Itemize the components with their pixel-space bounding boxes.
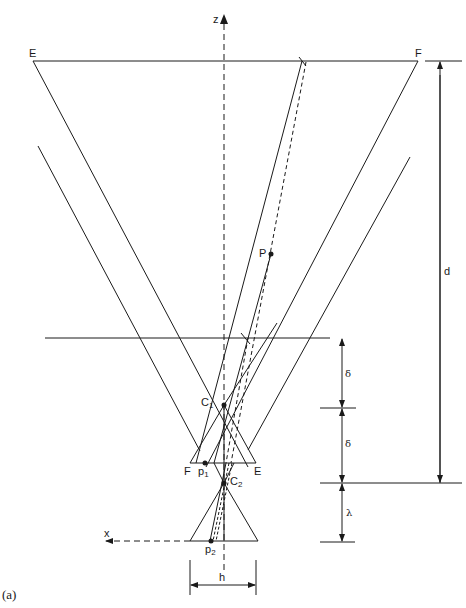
label-p2: p2 bbox=[205, 544, 216, 557]
ray-from-C1 bbox=[224, 323, 277, 405]
label-z-axis: z bbox=[213, 14, 219, 25]
point-C1 bbox=[222, 403, 227, 408]
cone-line-right-outer bbox=[206, 61, 418, 467]
label-F-top: F bbox=[415, 48, 422, 59]
optics-diagram bbox=[0, 0, 466, 608]
label-p2-sub: 2 bbox=[211, 548, 215, 557]
label-C2: C2 bbox=[230, 476, 242, 489]
label-F-lower: F bbox=[184, 466, 191, 477]
label-C1-sub: 1 bbox=[209, 401, 213, 410]
label-C1-base: C bbox=[201, 396, 209, 408]
label-p1-sub: 1 bbox=[204, 470, 208, 479]
label-delta-lower: δ bbox=[345, 439, 351, 449]
figure-caption: (a) bbox=[2, 588, 16, 601]
cone-line-left-outer bbox=[33, 61, 248, 467]
label-C2-sub: 2 bbox=[238, 480, 242, 489]
ray-dashed-2 bbox=[226, 338, 248, 463]
label-E-lower: E bbox=[254, 466, 261, 477]
point-P bbox=[269, 252, 274, 257]
label-x-axis: x bbox=[104, 528, 110, 539]
label-P: P bbox=[259, 248, 266, 259]
ray-dashed bbox=[231, 62, 306, 463]
label-delta-upper: δ bbox=[345, 369, 351, 379]
cone-line-left-inner bbox=[38, 146, 200, 451]
label-h: h bbox=[219, 572, 225, 583]
z-arrowhead bbox=[220, 14, 228, 24]
triangle-upper-left bbox=[190, 405, 224, 463]
label-C2-base: C bbox=[230, 475, 238, 487]
label-E-top: E bbox=[29, 48, 36, 59]
point-C2 bbox=[222, 481, 227, 486]
label-C1: C1 bbox=[201, 397, 213, 410]
label-p1: p1 bbox=[198, 466, 209, 479]
label-d: d bbox=[444, 266, 450, 277]
label-lambda: λ bbox=[346, 508, 352, 518]
triangle-lower-right bbox=[224, 483, 258, 541]
cone-line-right-inner bbox=[248, 157, 410, 450]
